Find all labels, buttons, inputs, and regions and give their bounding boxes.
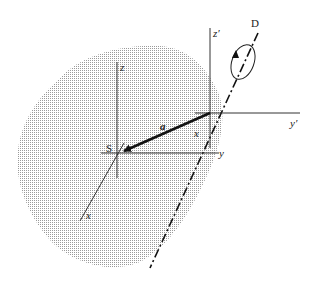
label-a: a [160, 120, 166, 132]
label-x-prime: x [193, 127, 199, 139]
label-z-prime: z′ [212, 27, 220, 39]
label-y-prime: y′ [289, 117, 298, 129]
rotation-arrow-icon [232, 50, 239, 58]
label-x: x [85, 209, 91, 221]
label-s: S [106, 142, 112, 154]
label-d: D [251, 17, 259, 29]
rigid-body-shape [17, 46, 222, 267]
label-z: z [119, 61, 125, 73]
rigid-body-diagram: D S a z y x z′ y′ x [0, 0, 310, 281]
rotation-indicator-icon [227, 41, 260, 82]
label-y: y [218, 147, 224, 159]
